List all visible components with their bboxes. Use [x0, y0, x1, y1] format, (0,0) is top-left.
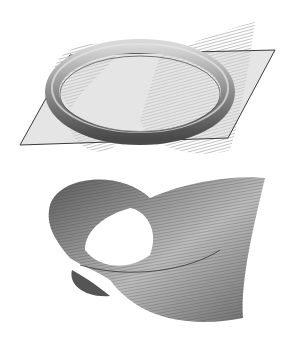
- ruled-surface-figure: [0, 170, 292, 343]
- torus-plane-illustration: [0, 0, 292, 170]
- ruling-lines: [49, 177, 265, 322]
- ruled-surface-illustration: [0, 170, 292, 343]
- torus-plane-figure: [0, 0, 292, 170]
